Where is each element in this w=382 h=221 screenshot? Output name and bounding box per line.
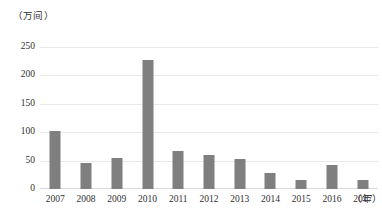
y-axis-tick-label: 200 bbox=[21, 71, 35, 81]
bar bbox=[50, 131, 61, 190]
y-axis-tick-label: 0 bbox=[30, 184, 35, 194]
x-axis-tick-label: 2015 bbox=[286, 194, 317, 204]
bar-chart: （万间） 050100150200250 2007200820092010201… bbox=[0, 0, 382, 221]
bar-slot bbox=[71, 47, 102, 189]
x-axis-unit-label: （年） bbox=[352, 194, 382, 204]
bar bbox=[111, 158, 122, 189]
bar-slot bbox=[132, 47, 163, 189]
x-axis-tick-label: 2007 bbox=[40, 194, 71, 204]
bar bbox=[265, 173, 276, 189]
x-axis-tick-label: 2012 bbox=[194, 194, 225, 204]
bar-slot bbox=[286, 47, 317, 189]
bar bbox=[234, 159, 245, 189]
y-axis-tick-label: 250 bbox=[21, 42, 35, 52]
bar bbox=[357, 180, 368, 189]
x-axis-tick-label: 2014 bbox=[255, 194, 286, 204]
x-axis-tick-label: 2013 bbox=[224, 194, 255, 204]
bar-slot bbox=[40, 47, 71, 189]
bar bbox=[203, 155, 214, 189]
bar bbox=[326, 165, 337, 189]
bar-slot bbox=[255, 47, 286, 189]
plot-area: 050100150200250 bbox=[40, 47, 378, 189]
bar bbox=[81, 163, 92, 189]
bar bbox=[173, 151, 184, 189]
y-axis-unit-label: （万间） bbox=[13, 8, 54, 22]
x-axis-tick-label: 2009 bbox=[101, 194, 132, 204]
bar-slot bbox=[317, 47, 348, 189]
bar-slot bbox=[163, 47, 194, 189]
bar-slot bbox=[194, 47, 225, 189]
bar-slot bbox=[224, 47, 255, 189]
y-axis-tick-label: 150 bbox=[21, 99, 35, 109]
x-axis-tick-label: 2011 bbox=[163, 194, 194, 204]
bars-layer bbox=[40, 47, 378, 189]
x-axis-tick-label: 2008 bbox=[71, 194, 102, 204]
x-axis-tick-labels: 2007200820092010201120122013201420152016… bbox=[40, 194, 378, 210]
y-axis-tick-label: 100 bbox=[21, 127, 35, 137]
bar bbox=[296, 180, 307, 189]
bar-slot bbox=[347, 47, 378, 189]
x-axis-tick-label: 2010 bbox=[132, 194, 163, 204]
bar bbox=[142, 60, 153, 190]
x-axis-tick-label: 2016 bbox=[317, 194, 348, 204]
y-axis-tick-label: 50 bbox=[26, 156, 36, 166]
bar-slot bbox=[101, 47, 132, 189]
